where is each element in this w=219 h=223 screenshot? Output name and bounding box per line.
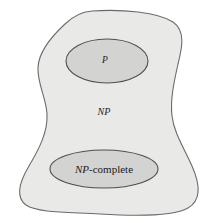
- complexity-diagram-canvas: P NP NP-complete: [0, 0, 219, 223]
- np-complete-label-prefix: NP: [74, 163, 89, 175]
- complexity-diagram: P NP NP-complete: [0, 0, 219, 223]
- np-complete-region-label: NP-complete: [74, 163, 133, 175]
- p-region-label: P: [101, 55, 108, 65]
- np-complete-label-suffix: -complete: [89, 163, 133, 175]
- np-region-label: NP: [97, 106, 111, 117]
